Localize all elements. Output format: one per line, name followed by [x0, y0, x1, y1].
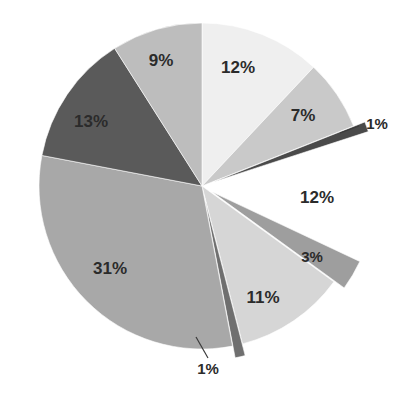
pie-slice-label-3: 1%	[366, 115, 388, 132]
pie-slice-label-7: 1%	[197, 360, 219, 377]
pie-slice-label-9: 13%	[74, 112, 108, 131]
pie-slice-label-10: 9%	[149, 51, 174, 70]
pie-chart-figure: 12%7%1%12%3%11%1%31%13%9%	[0, 0, 405, 396]
pie-slice-label-8: 31%	[93, 259, 127, 278]
pie-slice-label-6: 11%	[246, 288, 279, 307]
pie-slice-label-2: 7%	[291, 106, 316, 125]
pie-slice-label-4: 12%	[300, 188, 334, 207]
pie-slice-label-5: 3%	[301, 248, 323, 265]
pie-chart-canvas: 12%7%1%12%3%11%1%31%13%9%	[0, 0, 405, 396]
pie-slice-label-1: 12%	[221, 58, 255, 77]
